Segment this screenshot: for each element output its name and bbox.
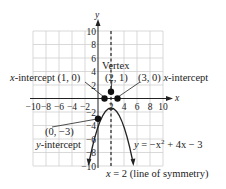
svg-text:4: 4 xyxy=(91,67,96,77)
svg-text:6: 6 xyxy=(135,102,140,112)
svg-text:−2: −2 xyxy=(86,108,96,118)
x-tick-labels: −10 −8 −6 −4 −2 2 4 6 8 10 xyxy=(26,102,168,112)
vertex-point xyxy=(108,89,114,95)
svg-text:8: 8 xyxy=(91,40,96,50)
y-intercept-label: y-intercept xyxy=(35,139,81,150)
x-axis-arrow-icon xyxy=(166,96,173,101)
y-tick-labels: 10 8 6 4 2 −2 −4 −6 −8 −10 xyxy=(81,27,96,172)
x-intercept-left-label: x-intercept (1, 0) xyxy=(9,72,81,84)
svg-text:4: 4 xyxy=(122,102,127,112)
x-axis-label: x xyxy=(174,93,180,103)
svg-text:−4: −4 xyxy=(86,121,96,131)
y-intercept-point xyxy=(95,116,101,122)
y-axis-label: y xyxy=(94,10,100,20)
y-axis-arrow-icon xyxy=(96,19,101,26)
svg-text:6: 6 xyxy=(91,54,96,64)
svg-text:−6: −6 xyxy=(54,102,64,112)
svg-text:−8: −8 xyxy=(41,102,51,112)
vertex-coord: (2, 1) xyxy=(105,72,128,84)
svg-text:10: 10 xyxy=(87,27,97,37)
svg-text:10: 10 xyxy=(158,102,168,112)
vertex-title: Vertex xyxy=(102,60,130,71)
svg-text:8: 8 xyxy=(148,102,153,112)
x-intercept-left-point xyxy=(101,95,107,101)
x-intercept-right-point xyxy=(114,95,120,101)
x-intercept-right-label: (3, 0) x-intercept xyxy=(138,72,208,84)
svg-text:−4: −4 xyxy=(67,102,77,112)
symmetry-label: x = 2 (line of symmetry) xyxy=(105,168,209,180)
right-arrow-icon xyxy=(131,159,136,167)
parabola-graph: x y −10 −8 −6 −4 −2 2 4 6 8 10 10 8 6 4 … xyxy=(0,0,226,189)
y-intercept-coord: (0, −3) xyxy=(45,126,74,138)
svg-text:−10: −10 xyxy=(26,102,41,112)
equation-label: y = −x2 + 4x − 3 xyxy=(133,138,203,150)
